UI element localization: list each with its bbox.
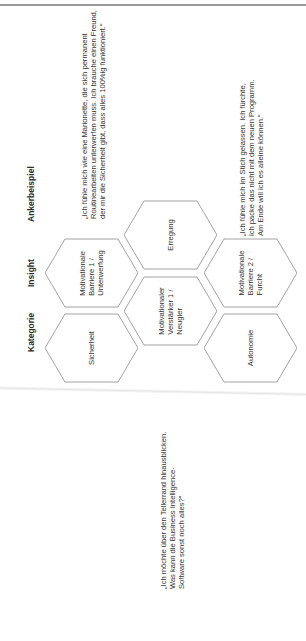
header-insight: Insight bbox=[26, 259, 36, 287]
scan-artifact-line bbox=[0, 386, 306, 396]
hexagon-label: Motivationale Barriere 1 / Unterwerfung bbox=[78, 250, 106, 296]
hexagon-label: Sicherheit bbox=[87, 331, 96, 365]
hexagon-label: Autonomie bbox=[246, 330, 255, 366]
quote-furcht: „Ich fühle mich im Stich gelassen. Ich f… bbox=[238, 79, 266, 236]
hexagon-label: Motivationaler Verstärker 1 / Neugier bbox=[157, 287, 185, 334]
hexagon-autonomie: Autonomie bbox=[204, 313, 297, 383]
header-ankerbeispiel: Ankerbeispiel bbox=[26, 166, 36, 222]
quote-neugier: „Ich möchte über den Tellerrand hinausbl… bbox=[159, 432, 187, 589]
quote-unterwerfung: „Ich fühle mich wie eine Marionette, die… bbox=[80, 10, 108, 219]
page-edge-line bbox=[0, 4, 306, 6]
header-kategorie: Kategorie bbox=[26, 313, 36, 352]
hexagon-label: Motivationale Barriere 2 / Furcht bbox=[237, 251, 265, 296]
hexagon-barriere-2: Motivationale Barriere 2 / Furcht bbox=[204, 238, 297, 308]
hexagon-label: Erregung bbox=[166, 219, 175, 250]
